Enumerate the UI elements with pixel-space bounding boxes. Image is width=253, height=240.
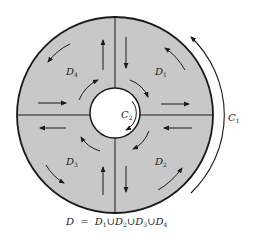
union-caption: D = D1∪D2∪D3∪D4 — [65, 216, 168, 228]
annulus-diagram: D4 D1 D3 D2 C2 C1 D = D1∪D2∪D3∪D4 — [0, 0, 253, 240]
curve-label-c1: C1 — [228, 112, 239, 124]
